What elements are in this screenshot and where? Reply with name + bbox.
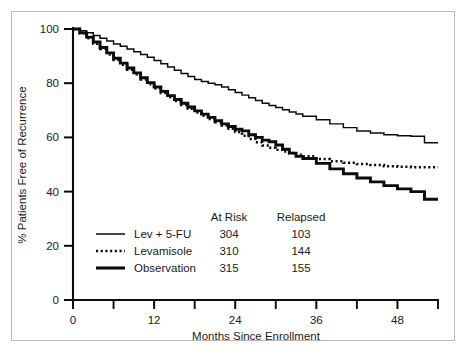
survival-curve-chart: 020406080100012243648 At RiskRelapsedLev… (0, 0, 466, 361)
legend-series-label: Lev + 5-FU (134, 228, 191, 240)
figure-container: 020406080100012243648 At RiskRelapsedLev… (0, 0, 466, 361)
x-tick-label: 48 (391, 314, 404, 326)
y-tick-label: 60 (46, 131, 59, 143)
legend-series-label: Levamisole (134, 245, 192, 257)
x-axis-title: Months Since Enrollment (192, 330, 321, 342)
curve-observation (73, 29, 438, 199)
x-tick-label: 12 (148, 314, 161, 326)
legend-column-header: Relapsed (277, 211, 326, 223)
chart-legend: At RiskRelapsedLev + 5-FU304103Levamisol… (96, 211, 325, 274)
y-tick-label: 20 (46, 240, 59, 252)
y-axis-title: % Patients Free of Recurrence (16, 86, 28, 243)
legend-column-header: At Risk (211, 211, 248, 223)
y-tick-label: 40 (46, 186, 59, 198)
x-tick-label: 24 (229, 314, 242, 326)
y-tick-label: 0 (53, 294, 59, 306)
legend-at-risk-value: 310 (219, 245, 238, 257)
x-tick-label: 0 (70, 314, 76, 326)
legend-at-risk-value: 304 (219, 228, 239, 240)
legend-relapsed-value: 144 (291, 245, 311, 257)
y-tick-label: 100 (40, 23, 59, 35)
x-tick-label: 36 (310, 314, 323, 326)
legend-series-label: Observation (134, 262, 196, 274)
curve-lev-5-fu (73, 29, 438, 143)
y-tick-label: 80 (46, 77, 59, 89)
legend-relapsed-value: 155 (291, 262, 310, 274)
data-curves (73, 29, 438, 199)
legend-relapsed-value: 103 (291, 228, 310, 240)
legend-at-risk-value: 315 (219, 262, 238, 274)
